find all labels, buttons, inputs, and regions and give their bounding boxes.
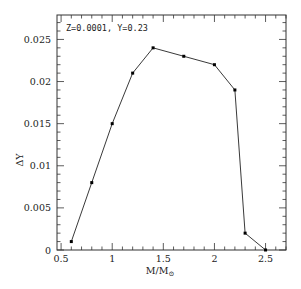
series-markers	[70, 46, 267, 251]
y-tick-labels: 00.0050.010.0150.020.025	[24, 34, 51, 256]
chart: 0.511.522.5 00.0050.010.0150.020.025 Z=0…	[0, 0, 301, 289]
x-axis-label: M/M⊙	[146, 265, 175, 278]
minor-ticks	[57, 15, 286, 250]
svg-text:0.01: 0.01	[30, 160, 51, 171]
plot-frame	[57, 15, 286, 250]
y-axis-label: ΔY	[14, 153, 25, 167]
svg-text:1.5: 1.5	[156, 253, 171, 264]
svg-text:2: 2	[211, 253, 217, 264]
svg-text:0: 0	[45, 245, 51, 256]
svg-text:0.005: 0.005	[24, 202, 51, 213]
svg-text:0.02: 0.02	[30, 76, 51, 87]
svg-text:1: 1	[109, 253, 115, 264]
annotation: Z=0.0001, Y=0.23	[66, 23, 148, 33]
svg-text:M/M⊙: M/M⊙	[146, 265, 175, 278]
series-line	[71, 48, 265, 250]
major-ticks	[57, 15, 286, 250]
svg-text:0.015: 0.015	[24, 118, 51, 129]
x-tick-labels: 0.511.522.5	[54, 253, 274, 264]
svg-text:0.025: 0.025	[24, 34, 51, 45]
svg-text:2.5: 2.5	[258, 253, 273, 264]
svg-text:0.5: 0.5	[54, 253, 69, 264]
